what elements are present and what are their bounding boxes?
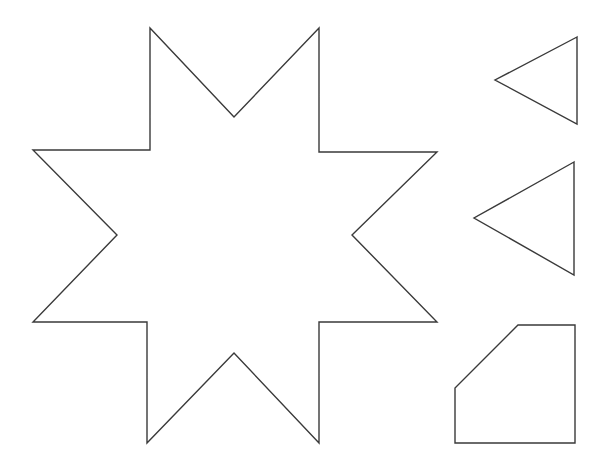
shapes-svg: [0, 0, 606, 470]
drawing-canvas: [0, 0, 606, 470]
